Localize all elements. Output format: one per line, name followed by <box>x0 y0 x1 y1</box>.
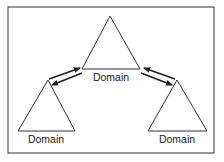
domain-label: Domain <box>28 133 64 145</box>
domain-node-top: Domain <box>82 16 140 83</box>
domain-label: Domain <box>93 71 129 83</box>
arrow-left-icon <box>52 73 82 85</box>
arrow-right-icon <box>49 68 80 79</box>
triangle-icon <box>82 16 140 69</box>
trust-arrows-right <box>141 68 175 85</box>
trust-arrows-left <box>49 68 82 85</box>
domain-node-right: Domain <box>148 80 207 145</box>
domain-label: Domain <box>159 133 195 145</box>
triangle-icon <box>18 80 75 131</box>
domain-node-left: Domain <box>18 80 75 145</box>
triangle-icon <box>148 80 207 131</box>
arrow-left-icon <box>144 68 175 79</box>
domain-tree-diagram: Domain Domain Domain <box>0 0 224 162</box>
arrow-right-icon <box>141 73 172 85</box>
